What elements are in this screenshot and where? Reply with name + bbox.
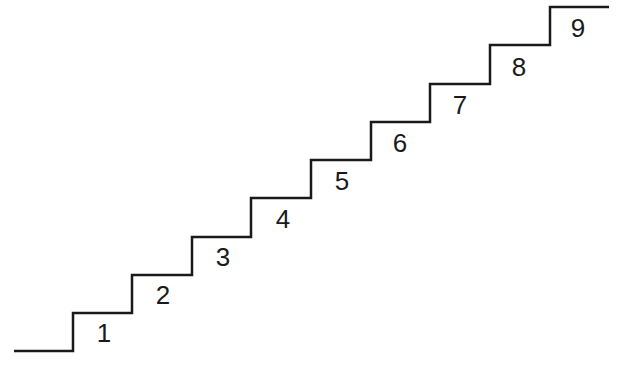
step-label-8: 8 [512, 54, 526, 80]
step-label-9: 9 [571, 15, 585, 41]
step-label-7: 7 [453, 92, 467, 118]
step-label-3: 3 [216, 244, 230, 270]
step-label-1: 1 [97, 320, 111, 346]
step-label-4: 4 [276, 206, 290, 232]
staircase-diagram [0, 0, 621, 372]
step-label-6: 6 [393, 130, 407, 156]
step-label-2: 2 [156, 282, 170, 308]
step-label-5: 5 [335, 168, 349, 194]
